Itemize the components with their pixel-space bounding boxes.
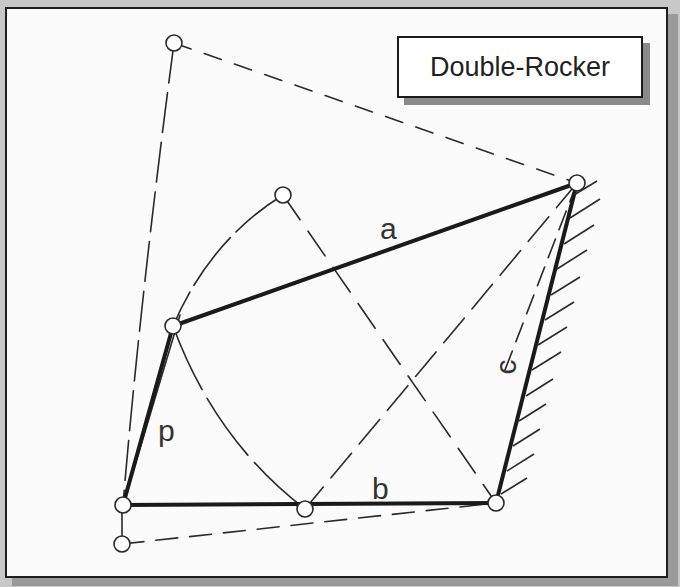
pivot-mid-upper (275, 187, 291, 203)
label-c: c (491, 360, 521, 375)
pivot-ground-left (115, 497, 131, 513)
diagram-title: Double-Rocker (397, 36, 643, 98)
dashed-right-thin (505, 183, 577, 370)
pivot-extreme-top-left (166, 35, 182, 51)
arc-lower (173, 326, 305, 509)
pivot-ground-right (488, 495, 504, 511)
diagram-stage: a b c d Double-Rocker (0, 0, 680, 587)
pivot-coupler-right (569, 175, 585, 191)
label-d: d (158, 420, 175, 450)
pivot-extreme-bottom-left (114, 536, 130, 552)
title-box: Double-Rocker (397, 36, 643, 98)
label-b: b (372, 474, 389, 504)
label-a: a (380, 214, 397, 244)
pivot-mid-lower (297, 501, 313, 517)
pivot-coupler-left (165, 318, 181, 334)
ground-hatching (501, 181, 600, 494)
